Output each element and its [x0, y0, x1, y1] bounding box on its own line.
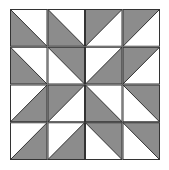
quilt-cell-2-1: [48, 85, 86, 123]
quilt-cell-2-0: [10, 85, 48, 123]
quilt-cell-2-2: [85, 85, 123, 123]
quilt-block: [10, 9, 160, 160]
quilt-cell-1-1: [48, 47, 86, 85]
quilt-cell-0-1: [48, 9, 86, 47]
quilt-cell-2-3: [123, 85, 161, 123]
quilt-cell-1-2: [85, 47, 123, 85]
quilt-cell-3-1: [48, 122, 86, 160]
quilt-cell-3-0: [10, 122, 48, 160]
quilt-cell-3-2: [85, 122, 123, 160]
quilt-cell-0-2: [85, 9, 123, 47]
quilt-cell-0-0: [10, 9, 48, 47]
quilt-cell-3-3: [123, 122, 161, 160]
quilt-grid: [10, 9, 160, 160]
quilt-cell-1-3: [123, 47, 161, 85]
quilt-cell-0-3: [123, 9, 161, 47]
quilt-cell-1-0: [10, 47, 48, 85]
